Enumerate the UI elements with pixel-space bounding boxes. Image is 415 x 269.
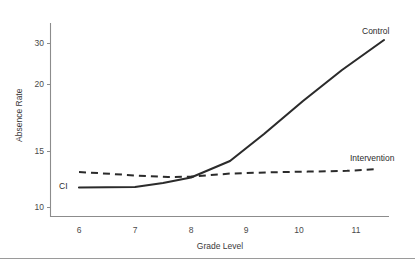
intervention-series-label: Intervention <box>350 154 394 163</box>
chart-figure: 30 20 15 10 6 7 8 9 10 11 Absence Rate G… <box>0 0 415 269</box>
x-tick-label-9: 9 <box>238 226 254 235</box>
x-tick-label-6: 6 <box>71 226 87 235</box>
control-series-label: Control <box>362 27 389 36</box>
x-tick-label-11: 11 <box>348 226 364 235</box>
x-axis-title: Grade Level <box>185 242 255 251</box>
x-tick-label-10: 10 <box>291 226 307 235</box>
y-tick-label-15: 15 <box>28 147 44 156</box>
y-tick-label-10: 10 <box>28 203 44 212</box>
y-axis-title: Absence Rate <box>15 80 24 150</box>
y-tick-label-20: 20 <box>28 80 44 89</box>
bottom-divider <box>0 258 415 259</box>
y-tick-label-30: 30 <box>28 39 44 48</box>
x-tick-label-7: 7 <box>127 226 143 235</box>
series-line-control <box>79 40 384 188</box>
series-line-intervention <box>79 169 375 177</box>
x-tick-label-8: 8 <box>183 226 199 235</box>
ci-annotation: CI <box>59 182 68 191</box>
